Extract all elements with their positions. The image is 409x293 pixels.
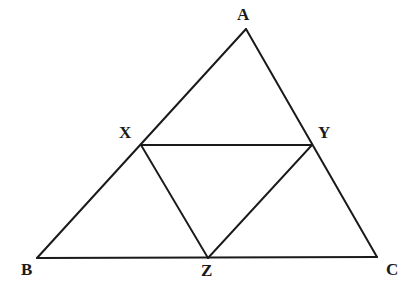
- geometry-figure: A B C X Y Z: [0, 0, 409, 293]
- vertex-label-X: X: [119, 124, 131, 141]
- vertex-label-B: B: [21, 261, 33, 278]
- side-AB-line: [37, 29, 246, 258]
- vertex-label-A: A: [237, 6, 249, 23]
- side-AC-line: [246, 29, 377, 257]
- vertex-label-C: C: [386, 261, 398, 278]
- segment-XZ-line: [141, 145, 208, 258]
- outer-triangle: [37, 29, 377, 258]
- vertex-label-Z: Z: [201, 262, 213, 279]
- medial-triangle: [141, 145, 312, 258]
- triangle-diagram-svg: [0, 0, 409, 293]
- vertex-label-Y: Y: [318, 124, 330, 141]
- segment-YZ-line: [208, 145, 312, 258]
